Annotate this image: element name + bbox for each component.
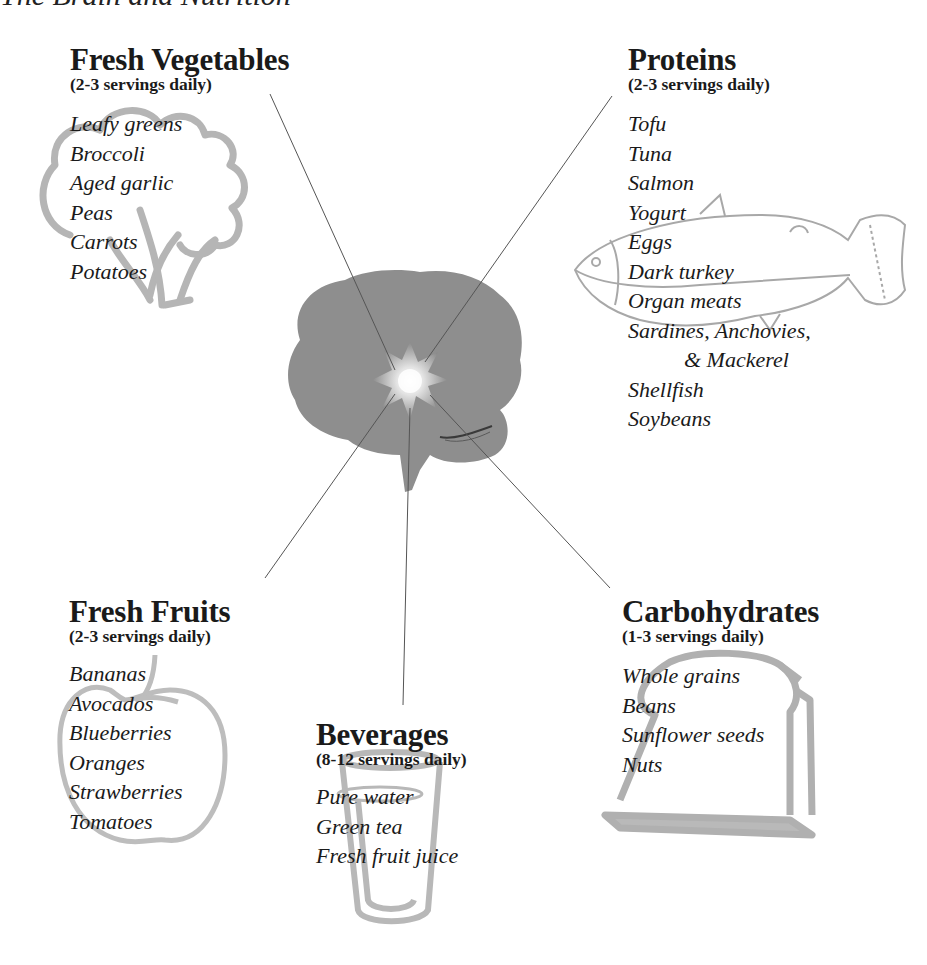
group-title: Fresh Vegetables	[70, 44, 289, 75]
list-item: Sunflower seeds	[622, 720, 819, 750]
food-list: Tofu Tuna Salmon Yogurt Eggs Dark turkey…	[628, 109, 811, 434]
group-title: Beverages	[316, 719, 467, 750]
list-item: Beans	[622, 691, 819, 721]
food-list: Whole grains Beans Sunflower seeds Nuts	[622, 661, 819, 779]
list-item: Pure water	[316, 782, 467, 812]
list-item: Potatoes	[70, 257, 289, 287]
list-item: Strawberries	[69, 777, 231, 807]
list-item: Yogurt	[628, 198, 811, 228]
list-item: Green tea	[316, 812, 467, 842]
list-item: Blueberries	[69, 718, 231, 748]
list-item: Tofu	[628, 109, 811, 139]
list-item: Leafy greens	[70, 109, 289, 139]
servings-label: (2-3 servings daily)	[70, 75, 289, 93]
list-item: & Mackerel	[628, 345, 811, 375]
group-title: Proteins	[628, 44, 811, 75]
food-list: Bananas Avocados Blueberries Oranges Str…	[69, 659, 231, 836]
group-fruits: Fresh Fruits (2-3 servings daily) Banana…	[69, 596, 231, 836]
list-item: Broccoli	[70, 139, 289, 169]
group-title: Fresh Fruits	[69, 596, 231, 627]
list-item: Tuna	[628, 139, 811, 169]
group-carbohydrates: Carbohydrates (1-3 servings daily) Whole…	[622, 596, 819, 779]
list-item: Peas	[70, 198, 289, 228]
food-list: Leafy greens Broccoli Aged garlic Peas C…	[70, 109, 289, 286]
list-item: Eggs	[628, 227, 811, 257]
list-item: Nuts	[622, 750, 819, 780]
list-item: Bananas	[69, 659, 231, 689]
servings-label: (8-12 servings daily)	[316, 750, 467, 768]
list-item: Aged garlic	[70, 168, 289, 198]
list-item: Dark turkey	[628, 257, 811, 287]
list-item: Whole grains	[622, 661, 819, 691]
group-vegetables: Fresh Vegetables (2-3 servings daily) Le…	[70, 44, 289, 286]
list-item: Oranges	[69, 748, 231, 778]
group-title: Carbohydrates	[622, 596, 819, 627]
list-item: Organ meats	[628, 286, 811, 316]
group-proteins: Proteins (2-3 servings daily) Tofu Tuna …	[628, 44, 811, 434]
list-item: Soybeans	[628, 404, 811, 434]
list-item: Tomatoes	[69, 807, 231, 837]
servings-label: (2-3 servings daily)	[69, 627, 231, 645]
list-item: Carrots	[70, 227, 289, 257]
list-item: Avocados	[69, 689, 231, 719]
list-item: Salmon	[628, 168, 811, 198]
servings-label: (2-3 servings daily)	[628, 75, 811, 93]
list-item: Sardines, Anchovies,	[628, 316, 811, 346]
servings-label: (1-3 servings daily)	[622, 627, 819, 645]
list-item: Shellfish	[628, 375, 811, 405]
list-item: Fresh fruit juice	[316, 841, 467, 871]
food-list: Pure water Green tea Fresh fruit juice	[316, 782, 467, 871]
group-beverages: Beverages (8-12 servings daily) Pure wat…	[316, 719, 467, 871]
